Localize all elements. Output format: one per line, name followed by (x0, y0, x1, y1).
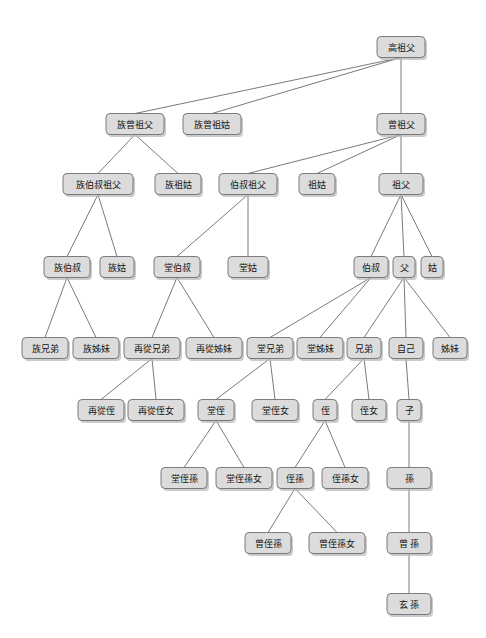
kinship-edge (295, 489, 337, 533)
kinship-edge (406, 359, 409, 400)
kinship-node-zengzufu[interactable]: 曾祖父 (377, 114, 427, 138)
kinship-node-xiongdi[interactable]: 兄弟 (347, 338, 383, 362)
node-label: 族伯叔 (54, 262, 81, 273)
kinship-node-zhinv[interactable]: 侄女 (352, 400, 388, 424)
kinship-node-zi[interactable]: 子 (397, 400, 423, 424)
kinship-node-zhisunnv[interactable]: 侄孫女 (322, 468, 370, 492)
node-label: 族曾祖父 (117, 119, 153, 130)
kinship-node-gaozufu[interactable]: 高祖父 (377, 37, 427, 61)
kinship-node-zengzhisunnv[interactable]: 曾侄孫女 (309, 533, 367, 557)
kinship-node-zugu[interactable]: 祖姑 (299, 174, 337, 198)
kinship-node-jiemei[interactable]: 姊妹 (433, 338, 469, 362)
kinship-node-zuzugu[interactable]: 族祖姑 (155, 174, 203, 198)
kinship-edge (216, 421, 244, 468)
node-label: 再從姊妹 (196, 343, 232, 354)
kinship-edge (184, 421, 216, 468)
node-label: 族兄弟 (32, 343, 59, 354)
node-label: 曾侄孫 (255, 538, 282, 549)
node-label: 堂姑 (239, 262, 257, 273)
kinship-edge (98, 195, 117, 257)
node-label: 伯叔 (362, 262, 380, 273)
kinship-node-baishuzufu[interactable]: 伯叔祖父 (219, 174, 279, 198)
kinship-edge (270, 278, 371, 338)
kinship-edge (401, 195, 432, 257)
kinship-node-tangzhinv[interactable]: 堂侄女 (252, 400, 300, 424)
kinship-node-zujiemei[interactable]: 族姊妹 (73, 338, 121, 362)
node-label: 姑 (428, 262, 437, 273)
kinship-node-zhi[interactable]: 侄 (313, 400, 339, 424)
node-label: 祖父 (392, 179, 410, 190)
kinship-node-zaicongxiongdi[interactable]: 再從兄弟 (124, 338, 182, 362)
node-label: 堂兄弟 (257, 343, 284, 354)
kinship-node-zubaishuzufu[interactable]: 族伯叔祖父 (63, 174, 135, 198)
kinship-node-zaicongzhi[interactable]: 再從侄 (78, 400, 126, 424)
kinship-node-zaicongzhinv[interactable]: 再從侄女 (128, 400, 186, 424)
kinship-node-tangjiemei[interactable]: 堂姊妹 (297, 338, 345, 362)
node-label: 族姊妹 (83, 343, 110, 354)
node-label: 侄女 (360, 405, 378, 416)
kinship-node-zufu[interactable]: 祖父 (379, 174, 425, 198)
node-label: 堂侄孫女 (226, 473, 262, 484)
kinship-edge (135, 135, 178, 174)
kinship-node-zaicongjiemei[interactable]: 再從姊妹 (186, 338, 244, 362)
node-label: 玄 孫 (399, 599, 420, 610)
kinship-node-sun[interactable]: 孫 (387, 468, 433, 492)
node-label: 祖姑 (308, 179, 326, 190)
node-label: 伯叔祖父 (230, 179, 266, 190)
node-label: 族伯叔祖父 (76, 179, 121, 190)
kinship-edge (67, 278, 96, 338)
node-label: 再從兄弟 (134, 343, 170, 354)
kinship-node-zugu2[interactable]: 族姑 (100, 257, 136, 281)
kinship-edge (317, 135, 401, 174)
kinship-node-zhisun[interactable]: 侄孫 (277, 468, 315, 492)
kinship-node-tangbaishu[interactable]: 堂伯叔 (154, 257, 202, 281)
kinship-edge (135, 58, 401, 114)
node-label: 曾祖父 (388, 119, 415, 130)
node-label: 高祖父 (388, 42, 415, 53)
nodes-layer: 高祖父族曾祖父族曾祖姑曾祖父族伯叔祖父族祖姑伯叔祖父祖姑祖父族伯叔族姑堂伯叔堂姑… (22, 37, 469, 618)
kinship-edge (268, 489, 295, 533)
kinship-edge (364, 278, 404, 338)
node-label: 再從侄 (88, 405, 115, 416)
node-label: 堂侄 (207, 405, 225, 416)
kinship-edge (216, 359, 270, 400)
kinship-edge (270, 359, 275, 400)
kinship-node-zuxiongdi[interactable]: 族兄弟 (22, 338, 70, 362)
kinship-node-tangzhi[interactable]: 堂侄 (198, 400, 236, 424)
kinship-node-gu[interactable]: 姑 (421, 257, 445, 281)
kinship-node-zengzhisun[interactable]: 曾侄孫 (245, 533, 293, 557)
node-label: 侄孫女 (332, 473, 359, 484)
kinship-node-zuzengzufu[interactable]: 族曾祖父 (106, 114, 166, 138)
kinship-node-xuansun[interactable]: 玄 孫 (387, 594, 433, 618)
edges-layer (45, 58, 450, 594)
kinship-edge (152, 359, 156, 400)
node-label: 堂侄女 (262, 405, 289, 416)
kinship-node-tangxiongdi[interactable]: 堂兄弟 (247, 338, 295, 362)
node-label: 兄弟 (355, 343, 373, 354)
kinship-node-fu[interactable]: 父 (393, 257, 417, 281)
node-label: 父 (400, 263, 409, 273)
kinship-edge (177, 278, 214, 338)
node-label: 堂姊妹 (307, 343, 334, 354)
node-label: 再從侄女 (138, 405, 174, 416)
node-label: 族曾祖姑 (194, 119, 230, 130)
node-label: 子 (405, 406, 414, 416)
kinship-node-zubaishu[interactable]: 族伯叔 (44, 257, 92, 281)
node-label: 侄孫 (286, 473, 304, 484)
kinship-node-baishu[interactable]: 伯叔 (354, 257, 390, 281)
kinship-node-tangzhisunnv[interactable]: 堂侄孫女 (216, 468, 274, 492)
node-label: 自己 (397, 343, 415, 354)
kinship-edge (404, 278, 450, 338)
kinship-edge (320, 278, 371, 338)
kinship-diagram-canvas: 高祖父族曾祖父族曾祖姑曾祖父族伯叔祖父族祖姑伯叔祖父祖姑祖父族伯叔族姑堂伯叔堂姑… (0, 0, 486, 638)
kinship-edge (45, 278, 67, 338)
kinship-node-tanggu[interactable]: 堂姑 (228, 257, 270, 281)
kinship-node-ziji[interactable]: 自己 (389, 338, 425, 362)
kinship-edge (325, 359, 364, 400)
node-label: 曾侄孫女 (319, 538, 355, 549)
kinship-node-tangzhisun[interactable]: 堂侄孫 (161, 468, 209, 492)
kinship-node-zuzengzugu[interactable]: 族曾祖姑 (183, 114, 243, 138)
kinship-edge (98, 135, 135, 174)
kinship-edge (401, 195, 404, 257)
kinship-node-zengsun[interactable]: 曾 孫 (387, 533, 433, 557)
